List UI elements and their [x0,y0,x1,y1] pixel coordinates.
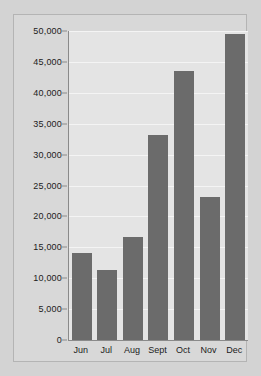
x-axis-tick-label: Jun [69,345,93,355]
bar [97,270,117,340]
y-axis-tick-label: 35,000 [16,119,62,129]
y-axis-tick-mark [62,31,67,32]
y-axis-tick-mark [62,185,67,186]
y-axis-tick-mark [62,340,67,341]
y-axis: 05,00010,00015,00020,00025,00030,00035,0… [14,15,62,363]
x-axis: JunJulAugSeptOctNovDec [68,345,247,355]
bar [225,34,245,340]
y-axis-tick-label: 30,000 [16,150,62,160]
y-axis-tick-label: 40,000 [16,88,62,98]
y-axis-tick-mark [62,61,67,62]
y-axis-tick-label: 10,000 [16,273,62,283]
y-axis-tick-label: 15,000 [16,242,62,252]
x-axis-tick-label: Jul [94,345,118,355]
y-axis-tick-label: 25,000 [16,181,62,191]
y-axis-tick-mark [62,278,67,279]
x-axis-tick-label: Aug [120,345,144,355]
y-axis-tick-label: 45,000 [16,57,62,67]
bar-chart: 05,00010,00015,00020,00025,00030,00035,0… [13,14,247,362]
plot-area [68,31,248,341]
y-axis-tick-mark [62,247,67,248]
bar [123,237,143,340]
bar [148,135,168,340]
y-axis-tick-mark [62,216,67,217]
y-axis-tick-mark [62,123,67,124]
x-axis-tick-label: Dec [222,345,246,355]
bar [72,253,92,340]
y-axis-tick-label: 5,000 [16,304,62,314]
x-axis-tick-label: Sept [145,345,169,355]
x-axis-tick-label: Nov [197,345,221,355]
x-axis-tick-label: Oct [171,345,195,355]
y-axis-tick-mark [62,154,67,155]
y-axis-tick-mark [62,92,67,93]
y-axis-tick-mark [62,309,67,310]
y-axis-tick-label: 0 [16,335,62,345]
y-axis-tick-label: 50,000 [16,26,62,36]
bar-series [69,31,248,340]
y-axis-tick-label: 20,000 [16,211,62,221]
bar [174,71,194,340]
bar [200,197,220,340]
